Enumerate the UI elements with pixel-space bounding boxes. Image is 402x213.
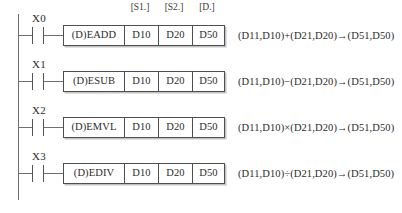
rung-wire-right: [44, 127, 63, 128]
instruction-box[interactable]: (D)ESUB D10 D20 D50: [63, 71, 225, 92]
contact-bar-left: [32, 27, 33, 44]
rung-expression: (D11,D10)×(D21,D20)→(D51,D50): [238, 120, 394, 135]
operand-destination: D50: [192, 26, 224, 45]
instruction-name: (D)EDIV: [64, 164, 124, 183]
operand-source-1: D10: [124, 118, 158, 137]
rung-expression: (D11,D10)−(D21,D20)→(D51,D50): [238, 74, 394, 89]
operand-column-headers: [S1.] [S2.] [D.]: [63, 2, 223, 14]
normally-open-contact-icon[interactable]: [32, 27, 44, 44]
contact-bar-left: [32, 119, 33, 136]
rung-wire-left: [18, 173, 32, 174]
rung-expression: (D11,D10)÷(D21,D20)→(D51,D50): [238, 166, 394, 181]
operand-destination: D50: [192, 164, 224, 183]
rung-wire-left: [18, 81, 32, 82]
instruction-box[interactable]: (D)EDIV D10 D20 D50: [63, 163, 225, 184]
instruction-name: (D)ESUB: [64, 72, 124, 91]
rung-wire-left: [18, 127, 32, 128]
contact-label: X1: [24, 58, 54, 71]
contact-bar-left: [32, 73, 33, 90]
header-source-1: [S1.]: [123, 2, 157, 14]
ladder-rung: X0 (D)EADD D10 D20 D50 (D11,D10)+(D21,D2…: [0, 14, 402, 60]
rung-expression: (D11,D10)+(D21,D20)→(D51,D50): [238, 28, 394, 43]
header-spacer: [63, 2, 123, 14]
operand-destination: D50: [192, 72, 224, 91]
operand-source-2: D20: [158, 164, 192, 183]
instruction-box[interactable]: (D)EMVL D10 D20 D50: [63, 117, 225, 138]
rung-wire-right: [44, 173, 63, 174]
rung-wire-right: [44, 81, 63, 82]
header-destination: [D.]: [191, 2, 223, 14]
contact-bar-left: [32, 165, 33, 182]
operand-destination: D50: [192, 118, 224, 137]
rung-wire-left: [18, 35, 32, 36]
ladder-rung: X1 (D)ESUB D10 D20 D50 (D11,D10)−(D21,D2…: [0, 60, 402, 106]
ladder-rung: X2 (D)EMVL D10 D20 D50 (D11,D10)×(D21,D2…: [0, 106, 402, 152]
normally-open-contact-icon[interactable]: [32, 73, 44, 90]
contact-label: X0: [24, 12, 54, 25]
operand-source-2: D20: [158, 118, 192, 137]
ladder-rung: X3 (D)EDIV D10 D20 D50 (D11,D10)÷(D21,D2…: [0, 152, 402, 198]
contact-label: X3: [24, 150, 54, 163]
operand-source-1: D10: [124, 72, 158, 91]
normally-open-contact-icon[interactable]: [32, 165, 44, 182]
rung-wire-right: [44, 35, 63, 36]
ladder-diagram-canvas: [S1.] [S2.] [D.] X0 (D)EADD D10 D20 D50 …: [0, 0, 402, 213]
instruction-name: (D)EMVL: [64, 118, 124, 137]
normally-open-contact-icon[interactable]: [32, 119, 44, 136]
header-source-2: [S2.]: [157, 2, 191, 14]
operand-source-2: D20: [158, 26, 192, 45]
contact-label: X2: [24, 104, 54, 117]
operand-source-1: D10: [124, 26, 158, 45]
instruction-box[interactable]: (D)EADD D10 D20 D50: [63, 25, 225, 46]
operand-source-2: D20: [158, 72, 192, 91]
operand-source-1: D10: [124, 164, 158, 183]
instruction-name: (D)EADD: [64, 26, 124, 45]
